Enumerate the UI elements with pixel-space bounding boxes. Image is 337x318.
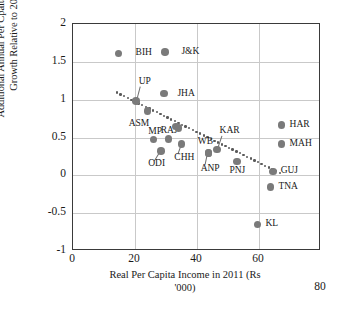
data-point-mp[interactable] <box>150 136 158 144</box>
data-point-raj[interactable] <box>165 135 173 143</box>
trendline-dot <box>192 129 194 131</box>
data-point-label: UP <box>139 77 151 87</box>
trendline-dot <box>123 95 125 97</box>
data-point-label: BIH <box>136 48 152 58</box>
data-point-label: TNA <box>278 182 298 192</box>
data-point-har[interactable] <box>278 121 286 129</box>
data-point-label: PNJ <box>229 166 245 176</box>
data-point-up[interactable] <box>132 97 140 105</box>
trendline-dot <box>250 157 252 159</box>
trendline-dot <box>199 132 201 134</box>
data-point-label: WB <box>198 137 213 147</box>
data-point-anp[interactable] <box>205 149 213 157</box>
trendline-dot <box>242 154 244 156</box>
trendline-dot <box>228 147 230 149</box>
trendline-dot <box>260 163 262 165</box>
trendline-dot <box>127 97 129 99</box>
trendline-dot <box>184 125 186 127</box>
trendline-dot <box>163 115 165 117</box>
data-point-label: ANP <box>201 164 220 174</box>
data-layer: BIHJ&KUPJHAASMMPRAJODICHHWBKARANPPNJGUJH… <box>0 0 337 318</box>
trendline-dot <box>239 152 241 154</box>
data-point-jha[interactable] <box>160 90 168 98</box>
data-point-label: J&K <box>181 47 199 57</box>
data-point-label: GUJ <box>281 166 298 176</box>
data-point-label: KL <box>265 219 278 229</box>
data-point-label: HAR <box>290 120 310 130</box>
data-point-label: KAR <box>220 126 240 136</box>
trendline-dot <box>235 150 237 152</box>
trendline-dot <box>166 116 168 118</box>
scatter-chart: Additional Annual Per Cpaita Income Grow… <box>0 0 337 318</box>
data-point-label: MAH <box>290 139 312 149</box>
data-point-guj[interactable] <box>269 168 277 176</box>
data-point-label: ODI <box>148 159 165 169</box>
trendline-dot <box>257 161 259 163</box>
trendline-dot <box>170 118 172 120</box>
data-point-label: JHA <box>177 89 194 99</box>
trendline-dot <box>246 156 248 158</box>
trendline-dot <box>119 93 121 95</box>
data-point[interactable] <box>175 124 183 132</box>
trendline-dot <box>152 109 154 111</box>
trendline-dot <box>195 131 197 133</box>
trendline-dot <box>159 113 161 115</box>
data-point-bih[interactable] <box>115 50 123 58</box>
trendline-dot <box>253 159 255 161</box>
data-point-asm[interactable] <box>144 107 152 115</box>
trendline-dot <box>188 127 190 129</box>
trendline-dot <box>221 143 223 145</box>
data-point-mah[interactable] <box>278 140 286 148</box>
data-point-label: CHH <box>174 153 194 163</box>
data-point-kar[interactable] <box>213 146 221 154</box>
data-point-kl[interactable] <box>254 221 262 229</box>
trendline-dot <box>213 140 215 142</box>
trendline-dot <box>141 104 143 106</box>
trendline-dot <box>231 148 233 150</box>
data-point-label: ASM <box>129 119 150 129</box>
trendline-dot <box>156 111 158 113</box>
trendline-dot <box>174 120 176 122</box>
trendline-dot <box>264 165 266 167</box>
trendline-dot <box>224 145 226 147</box>
data-point-j-k[interactable] <box>161 48 169 56</box>
data-point-chh[interactable] <box>178 140 186 148</box>
trendline-dot <box>116 91 118 93</box>
data-point-tna[interactable] <box>267 183 275 191</box>
data-point-odi[interactable] <box>157 147 165 155</box>
